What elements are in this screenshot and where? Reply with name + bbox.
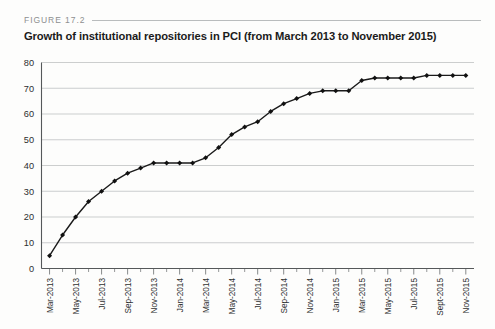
svg-text:Nov-2015: Nov-2015 [462,278,471,314]
svg-text:Mar-2013: Mar-2013 [46,278,55,313]
svg-text:50: 50 [24,135,34,145]
svg-text:40: 40 [24,161,34,171]
x-axis-tick-labels: Mar-2013May-2013Jul-2013Sep-2013Nov-2013… [46,278,471,316]
svg-text:Jul-2013: Jul-2013 [98,278,107,310]
svg-text:80: 80 [24,58,34,68]
svg-text:Sep-2013: Sep-2013 [124,278,133,314]
svg-text:Mar-2014: Mar-2014 [202,278,211,313]
svg-text:Jan-2014: Jan-2014 [176,278,185,313]
figure-title: Growth of institutional repositories in … [24,29,483,43]
figure-container: FIGURE 17.2 Growth of institutional repo… [0,0,495,329]
figure-header: FIGURE 17.2 [24,13,481,27]
figure-header-rule [92,20,481,21]
svg-text:10: 10 [24,238,34,248]
line-chart: 01020304050607080 Mar-2013May-2013Jul-20… [0,52,495,329]
figure-number-label: FIGURE 17.2 [24,15,85,25]
svg-text:20: 20 [24,212,34,222]
svg-text:May-2015: May-2015 [384,278,393,315]
x-axis-ticks [50,269,466,275]
svg-text:30: 30 [24,187,34,197]
svg-text:Mar-2015: Mar-2015 [358,278,367,313]
svg-text:Jul-2015: Jul-2015 [410,278,419,310]
svg-text:70: 70 [24,84,34,94]
svg-text:May-2013: May-2013 [72,278,81,315]
y-axis-tick-labels: 01020304050607080 [24,58,34,274]
svg-text:Nov-2014: Nov-2014 [306,278,315,314]
svg-text:Jul-2014: Jul-2014 [254,278,263,310]
svg-text:Jan-2015: Jan-2015 [332,278,341,313]
svg-text:May-2014: May-2014 [228,278,237,315]
svg-text:Sept-2015: Sept-2015 [436,278,445,316]
chart-plot-svg: 01020304050607080 Mar-2013May-2013Jul-20… [0,52,495,329]
grid-lines [42,63,475,269]
svg-text:60: 60 [24,109,34,119]
svg-text:Nov-2013: Nov-2013 [150,278,159,314]
svg-text:Sep-2014: Sep-2014 [280,278,289,314]
svg-text:0: 0 [29,264,34,274]
